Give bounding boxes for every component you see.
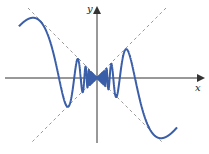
y-axis-label: y (87, 3, 93, 14)
graph (0, 0, 209, 154)
x-axis-label: x (195, 82, 201, 93)
